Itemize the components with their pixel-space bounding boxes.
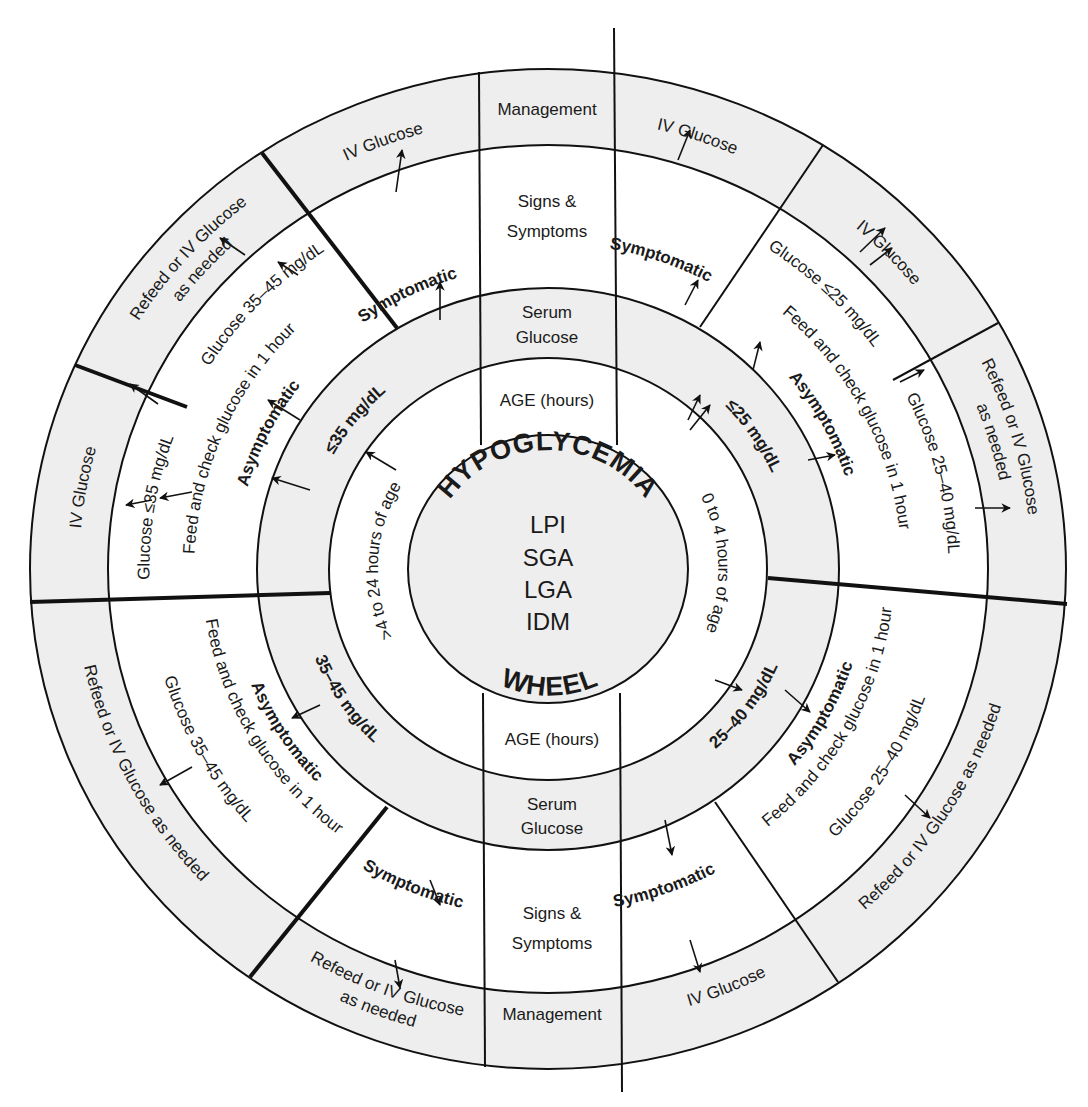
serum-label-top-line2: Glucose [516, 328, 578, 347]
age-label-bottom: AGE (hours) [505, 730, 599, 749]
signs-label-top-line1: Signs & [518, 192, 577, 211]
condition-idm: IDM [526, 608, 570, 635]
signs-label-top-line2: Symptoms [507, 222, 587, 241]
serum-label-bottom-line1: Serum [527, 795, 577, 814]
condition-lpi: LPI [530, 511, 566, 538]
management-label-bottom: Management [502, 1005, 602, 1024]
age-label-top: AGE (hours) [500, 391, 594, 410]
management-label-top: Management [497, 100, 597, 119]
serum-label-bottom-line2: Glucose [521, 819, 583, 838]
condition-lga: LGA [524, 576, 572, 603]
signs-label-bottom-line2: Symptoms [512, 934, 592, 953]
condition-sga: SGA [523, 544, 574, 571]
serum-label-top-line1: Serum [522, 303, 572, 322]
hypoglycemia-wheel-diagram: Management Signs & Symptoms Serum Glucos… [0, 0, 1088, 1107]
signs-label-bottom-line1: Signs & [523, 904, 582, 923]
